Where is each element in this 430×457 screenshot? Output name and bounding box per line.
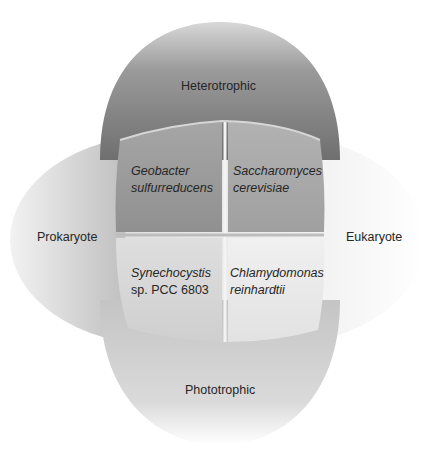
organism-saccharomyces: Saccharomyces cerevisiae: [233, 163, 322, 197]
phototrophic-label: Phototrophic: [185, 382, 255, 399]
organism-species: reinhardtii: [230, 282, 324, 299]
organism-genus: Synechocystis: [131, 265, 211, 282]
prokaryote-label: Prokaryote: [37, 229, 97, 246]
organism-synechocystis: Synechocystis sp. PCC 6803: [131, 265, 211, 299]
heterotrophic-label: Heterotrophic: [181, 78, 256, 95]
organism-genus: Saccharomyces: [233, 163, 322, 180]
eukaryote-label: Eukaryote: [346, 229, 402, 246]
organism-species: sulfurreducens: [131, 180, 213, 197]
organism-species: cerevisiae: [233, 180, 322, 197]
organism-geobacter: Geobacter sulfurreducens: [131, 163, 213, 197]
organism-strain: sp. PCC 6803: [131, 282, 211, 299]
organism-genus: Geobacter: [131, 163, 213, 180]
organism-genus: Chlamydomonas: [230, 265, 324, 282]
venn-diagram: Heterotrophic Phototrophic Prokaryote Eu…: [0, 0, 430, 457]
organism-chlamydomonas: Chlamydomonas reinhardtii: [230, 265, 324, 299]
